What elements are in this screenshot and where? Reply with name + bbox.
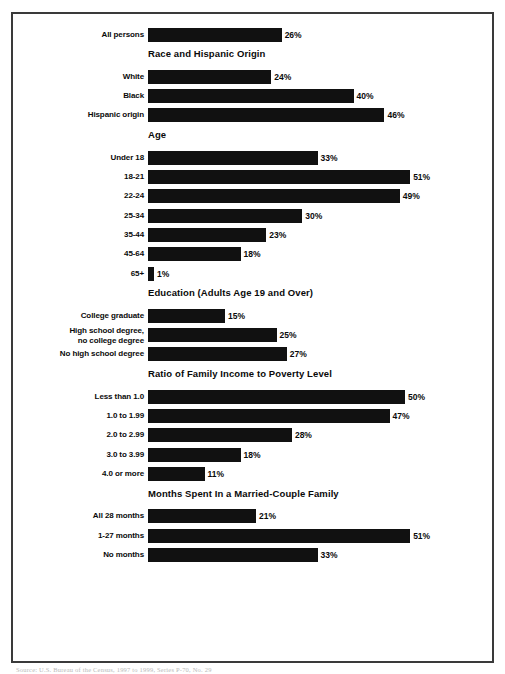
bar-value-label: 47% [390,411,410,421]
bar-value-label: 28% [292,430,312,440]
bar-category-label: All 28 months [13,511,144,521]
bar-track: 23% [148,228,488,242]
section-heading: Ratio of Family Income to Poverty Level [148,368,332,379]
bar-row: Under 1833% [13,148,492,167]
bar [148,108,384,122]
bar-value-label: 33% [318,550,338,560]
bar-category-label: 45-64 [13,249,144,259]
bar-row: 35-4423% [13,225,492,244]
bar-value-label: 50% [405,392,425,402]
bar-track: 50% [148,390,488,404]
bar-track: 18% [148,247,488,261]
bar-track: 24% [148,70,488,84]
bar-category-label: No high school degree [13,350,144,360]
bar-value-label: 26% [282,30,302,40]
bar-track: 26% [148,28,488,42]
bar [148,70,271,84]
bar-track: 51% [148,529,488,543]
bar-value-label: 40% [354,91,374,101]
bar-value-label: 11% [205,469,225,479]
bar-track: 49% [148,189,488,203]
bar-row: 65+1% [13,264,492,283]
bar-value-label: 27% [287,349,307,359]
bar [148,390,405,404]
bar [148,328,277,342]
bar-row: 18-2151% [13,168,492,187]
bar-value-label: 51% [410,531,430,541]
bar-category-label: 22-24 [13,192,144,202]
bar-value-label: 1% [154,269,169,279]
bar-track: 1% [148,267,488,281]
chart-plot-area: All persons26%Race and Hispanic OriginWh… [13,14,492,661]
bar-row: 45-6418% [13,245,492,264]
bar-row: Less than 1.050% [13,387,492,406]
bar-track: 18% [148,448,488,462]
bar-row: 1-27 months51% [13,526,492,545]
bar-value-label: 18% [241,450,261,460]
bar-track: 11% [148,467,488,481]
bar-category-label: 18-21 [13,172,144,182]
bar-value-label: 51% [410,172,430,182]
bar-value-label: 30% [302,211,322,221]
bar-track: 47% [148,409,488,423]
bar [148,228,266,242]
bar-category-label: 3.0 to 3.99 [13,450,144,460]
bar-row: No high school degree27% [13,345,492,364]
bar [148,529,410,543]
bar-category-label: 1-27 months [13,531,144,541]
bar [148,448,241,462]
bar-category-label: Under 18 [13,153,144,163]
bar-row: 22-2449% [13,187,492,206]
bar-track: 33% [148,548,488,562]
bar [148,347,287,361]
bar-track: 27% [148,347,488,361]
bar-value-label: 21% [256,511,276,521]
bar-value-label: 25% [277,330,297,340]
bar-track: 46% [148,108,488,122]
bar-category-label: Less than 1.0 [13,392,144,402]
bar-category-label: No months [13,550,144,560]
bar [148,409,390,423]
section-heading: Education (Adults Age 19 and Over) [148,287,313,298]
bar [148,309,225,323]
bar [148,189,400,203]
bar [148,170,410,184]
bar-value-label: 49% [400,191,420,201]
bar-row: 1.0 to 1.9947% [13,407,492,426]
bar [148,151,318,165]
bar-row: Black40% [13,87,492,106]
bar-category-label: 65+ [13,269,144,279]
section-heading: Months Spent In a Married-Couple Family [148,488,339,499]
chart-frame: All persons26%Race and Hispanic OriginWh… [11,12,494,663]
bar-row: 4.0 or more11% [13,464,492,483]
bar [148,509,256,523]
bar-track: 25% [148,328,488,342]
bar-category-label: 35-44 [13,230,144,240]
bar-track: 40% [148,89,488,103]
bar-value-label: 18% [241,249,261,259]
bar-category-label: 2.0 to 2.99 [13,431,144,441]
bar-track: 21% [148,509,488,523]
bar-category-label: Hispanic origin [13,111,144,121]
bar-value-label: 23% [266,230,286,240]
bar-value-label: 33% [318,153,338,163]
bar-row: 3.0 to 3.9918% [13,445,492,464]
bar [148,428,292,442]
bar-track: 28% [148,428,488,442]
bar-row: All 28 months21% [13,507,492,526]
bar-category-label: White [13,72,144,82]
bar-row: White24% [13,67,492,86]
bar-track: 30% [148,209,488,223]
bar-row: 2.0 to 2.9928% [13,426,492,445]
bar [148,548,318,562]
bar-category-label: Black [13,91,144,101]
bar-category-label: All persons [13,30,144,40]
bar-category-label: 4.0 or more [13,469,144,479]
bar-category-label: College graduate [13,311,144,321]
bar-category-label: 1.0 to 1.99 [13,411,144,421]
bar-row: 25-3430% [13,206,492,225]
bar-value-label: 15% [225,311,245,321]
bar-row: All persons26% [13,25,492,44]
bar-category-label: 25-34 [13,211,144,221]
bar-row: Hispanic origin46% [13,106,492,125]
